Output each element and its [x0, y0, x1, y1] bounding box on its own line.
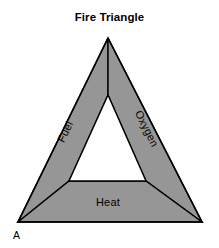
triangle-diagram: Fuel Oxygen Heat: [0, 0, 219, 248]
fire-triangle-figure: Fire Triangle Fuel Oxygen Heat A: [0, 0, 219, 248]
segment-label-heat: Heat: [96, 196, 120, 208]
panel-letter-label: A: [13, 229, 20, 241]
